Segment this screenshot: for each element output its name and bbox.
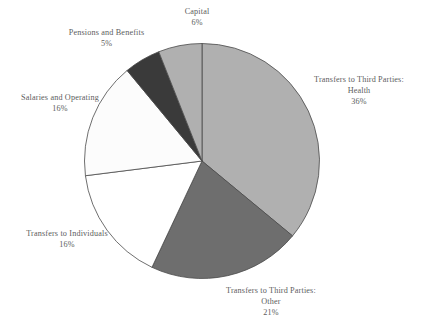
pie-label-transfers-to-individuals-line1: Transfers to Individuals bbox=[2, 228, 132, 239]
pie-label-pensions-and-benefits-percent: 5% bbox=[43, 38, 170, 49]
pie-label-salaries-and-operating: Salaries and Operating 16% bbox=[0, 92, 120, 114]
pie-label-pensions-and-benefits: Pensions and Benefits 5% bbox=[43, 27, 170, 49]
pie-label-health-line2: Health bbox=[300, 85, 418, 96]
pie-label-capital-line1: Capital bbox=[146, 6, 248, 17]
pie-chart: Transfers to Third Parties: Health 36% T… bbox=[0, 0, 423, 329]
pie-label-health-percent: 36% bbox=[300, 96, 418, 107]
pie-label-capital: Capital 6% bbox=[146, 6, 248, 28]
pie-label-transfers-to-individuals: Transfers to Individuals 16% bbox=[2, 228, 132, 250]
pie-label-pensions-and-benefits-line1: Pensions and Benefits bbox=[43, 27, 170, 38]
pie-label-health-line1: Transfers to Third Parties: bbox=[300, 74, 418, 85]
pie-label-salaries-and-operating-percent: 16% bbox=[0, 103, 120, 114]
pie-label-salaries-and-operating-line1: Salaries and Operating bbox=[0, 92, 120, 103]
pie-label-other-line1: Transfers to Third Parties: bbox=[196, 285, 346, 296]
pie-label-other: Transfers to Third Parties: Other 21% bbox=[196, 285, 346, 319]
pie-label-other-line2: Other bbox=[196, 296, 346, 307]
pie-label-capital-percent: 6% bbox=[146, 17, 248, 28]
pie-label-transfers-to-individuals-percent: 16% bbox=[2, 239, 132, 250]
pie-label-other-percent: 21% bbox=[196, 307, 346, 318]
pie-label-health: Transfers to Third Parties: Health 36% bbox=[300, 74, 418, 108]
